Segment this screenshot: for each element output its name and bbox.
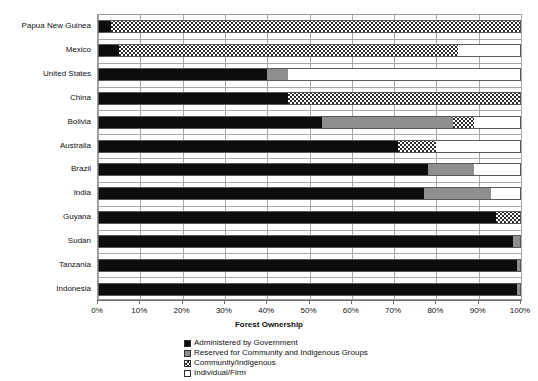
gridline-vertical: [140, 15, 141, 299]
bar-segment-reserved: [513, 235, 521, 248]
gridline-vertical: [352, 15, 353, 299]
bar-segment-community: [119, 44, 457, 57]
legend-swatch-gov-icon: [184, 340, 191, 347]
bar-segment-gov: [98, 20, 111, 33]
legend-label: Individual/Firm: [194, 368, 246, 378]
bar-row: [98, 283, 521, 296]
gridline-horizontal: [98, 110, 521, 111]
x-axis-tick-label: 80%: [427, 306, 443, 315]
gridline-horizontal: [98, 63, 521, 64]
x-axis-tick: [97, 300, 98, 304]
bar-row: [98, 140, 521, 153]
gridline-vertical: [394, 15, 395, 299]
x-axis-tick: [139, 300, 140, 304]
legend-item[interactable]: Administered by Government: [184, 338, 484, 348]
gridline-vertical: [310, 15, 311, 299]
gridline-vertical: [225, 15, 226, 299]
category-label: Papua New Guinea: [22, 20, 91, 31]
x-axis-tick: [393, 300, 394, 304]
gridline-horizontal: [98, 277, 521, 278]
legend-item[interactable]: Community/Indigenous: [184, 358, 484, 368]
gridline-horizontal: [98, 87, 521, 88]
bar-segment-gov: [98, 68, 267, 81]
legend-label: Administered by Government: [194, 338, 298, 348]
legend-item[interactable]: Reserved for Community and Indigenous Gr…: [184, 348, 484, 358]
bar-segment-gov: [98, 92, 288, 105]
legend-swatch-community-icon: [184, 360, 191, 367]
category-label: Tanzania: [59, 259, 91, 270]
bar-segment-gov: [98, 235, 513, 248]
x-axis-tick: [520, 300, 521, 304]
x-axis-tick: [266, 300, 267, 304]
category-label: Mexico: [66, 44, 91, 55]
forest-ownership-chart: Countries Papua New GuineaMexicoUnited S…: [0, 0, 538, 381]
bar-segment-individual: [436, 140, 521, 153]
category-label: India: [74, 187, 91, 198]
bar-row: [98, 20, 521, 33]
legend-item[interactable]: Individual/Firm: [184, 368, 484, 378]
category-label: Sudan: [68, 235, 91, 246]
gridline-horizontal: [98, 206, 521, 207]
bar-row: [98, 116, 521, 129]
category-label: China: [70, 92, 91, 103]
chart-legend: Administered by GovernmentReserved for C…: [184, 338, 484, 378]
plot-area: [97, 14, 522, 300]
gridline-vertical: [98, 15, 99, 299]
bar-segment-community: [398, 140, 436, 153]
gridline-horizontal: [98, 182, 521, 183]
gridline-horizontal: [98, 253, 521, 254]
gridline-horizontal: [98, 230, 521, 231]
gridline-vertical: [267, 15, 268, 299]
x-axis-tick: [351, 300, 352, 304]
bar-segment-individual: [474, 116, 521, 129]
bar-row: [98, 187, 521, 200]
bar-row: [98, 68, 521, 81]
legend-swatch-individual-icon: [184, 370, 191, 377]
bar-segment-individual: [288, 68, 521, 81]
bar-row: [98, 44, 521, 57]
bar-segment-gov: [98, 283, 517, 296]
bar-segment-gov: [98, 116, 322, 129]
x-axis-tick: [309, 300, 310, 304]
gridline-vertical: [183, 15, 184, 299]
gridline-horizontal: [98, 134, 521, 135]
bar-segment-community: [288, 92, 521, 105]
x-axis-tick-label: 50%: [300, 306, 316, 315]
bar-segment-community: [111, 20, 521, 33]
bar-segment-reserved: [322, 116, 453, 129]
category-label: United States: [43, 68, 91, 79]
category-label: Brazil: [71, 163, 91, 174]
bar-segment-reserved: [424, 187, 492, 200]
gridline-horizontal: [98, 158, 521, 159]
category-label: Australia: [60, 140, 91, 151]
bar-segment-community: [496, 211, 521, 224]
bar-segment-individual: [491, 187, 521, 200]
bar-segment-reserved: [517, 259, 521, 272]
gridline-vertical: [479, 15, 480, 299]
category-label: Bolivia: [67, 116, 91, 127]
bar-segment-individual: [458, 44, 521, 57]
bar-row: [98, 92, 521, 105]
gridline-horizontal: [98, 39, 521, 40]
x-axis-tick-label: 70%: [385, 306, 401, 315]
x-axis-tick-label: 100%: [510, 306, 530, 315]
x-axis-line: [97, 300, 522, 301]
bar-segment-gov: [98, 44, 119, 57]
bar-row: [98, 235, 521, 248]
x-axis-tick-label: 40%: [258, 306, 274, 315]
bar-segment-community: [453, 116, 474, 129]
bar-segment-gov: [98, 163, 428, 176]
x-axis-tick: [435, 300, 436, 304]
bar-segment-individual: [474, 163, 521, 176]
category-label: Indonesia: [56, 283, 91, 294]
bar-row: [98, 211, 521, 224]
x-axis-tick-label: 0%: [91, 306, 103, 315]
category-label-column: Papua New GuineaMexicoUnited StatesChina…: [20, 14, 94, 300]
x-axis-tick-label: 20%: [174, 306, 190, 315]
x-axis-title: Forest Ownership: [0, 320, 538, 329]
x-axis-tick-label: 60%: [343, 306, 359, 315]
bar-segment-gov: [98, 211, 496, 224]
legend-label: Community/Indigenous: [194, 358, 276, 368]
bar-segment-gov: [98, 187, 424, 200]
legend-label: Reserved for Community and Indigenous Gr…: [194, 348, 368, 358]
